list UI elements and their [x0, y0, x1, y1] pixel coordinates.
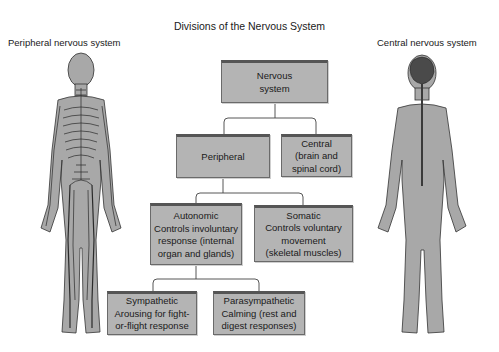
node-label: Nervous: [257, 70, 292, 83]
node-nervous-system: Nervoussystem: [221, 60, 328, 103]
node-label: spinal cord): [292, 163, 341, 176]
node-central: Central(brain andspinal cord): [281, 134, 352, 177]
node-parasympathetic: ParasympatheticCalming (rest anddigest r…: [213, 291, 305, 335]
node-somatic: SomaticControls voluntarymovement(skelet…: [254, 205, 353, 262]
node-label: Arousing for fight-: [115, 308, 190, 321]
node-label: Peripheral: [201, 151, 244, 164]
node-label: (brain and: [292, 150, 341, 163]
node-label: response (internal: [154, 235, 238, 248]
node-label: Autonomic: [154, 210, 238, 223]
node-label: Sympathetic: [115, 295, 190, 308]
node-label: Controls voluntary: [265, 222, 342, 235]
node-label: Central: [292, 138, 341, 151]
node-label: Parasympathetic: [222, 295, 297, 308]
node-label: or-flight response: [115, 320, 190, 333]
node-label: Controls involuntary: [154, 223, 238, 236]
node-peripheral: Peripheral: [176, 134, 270, 178]
node-autonomic: AutonomicControls involuntaryresponse (i…: [150, 203, 242, 265]
node-label: Somatic: [265, 210, 342, 223]
node-label: system: [257, 83, 292, 96]
node-label: movement: [265, 235, 342, 248]
node-label: digest responses): [222, 320, 297, 333]
node-label: organ and glands): [154, 248, 238, 261]
node-label: (skeletal muscles): [265, 247, 342, 260]
node-label: Calming (rest and: [222, 308, 297, 321]
node-sympathetic: SympatheticArousing for fight-or-flight …: [107, 291, 197, 335]
